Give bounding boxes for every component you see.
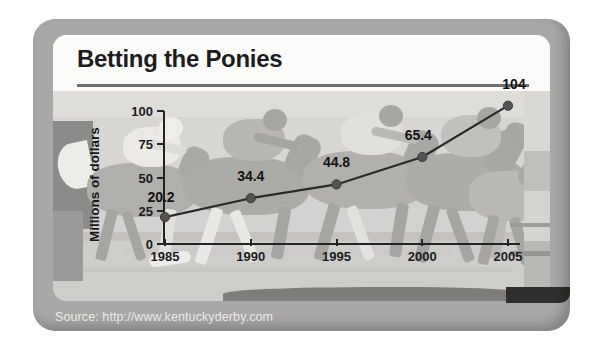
chart-card-frame: Betting the Ponies xyxy=(33,19,570,331)
data-point-marker xyxy=(332,180,341,189)
chart-card: Betting the Ponies xyxy=(53,35,550,301)
data-point-label: 44.8 xyxy=(323,154,350,170)
data-point-marker xyxy=(160,213,169,222)
data-point-label: 104 xyxy=(502,76,525,92)
series-line xyxy=(53,35,550,301)
data-point-label: 65.4 xyxy=(405,127,432,143)
line-chart-plot: Millions of dollars 0255075100 198519901… xyxy=(53,35,550,301)
source-attribution: Source: http://www.kentuckyderby.com xyxy=(55,310,273,324)
source-band: Source: http://www.kentuckyderby.com xyxy=(33,301,570,331)
footer-sweep-shape xyxy=(223,287,523,301)
data-point-label: 34.4 xyxy=(237,168,264,184)
data-point-marker xyxy=(246,194,255,203)
data-point-marker xyxy=(503,101,512,110)
data-point-marker xyxy=(418,152,427,161)
data-point-label: 20.2 xyxy=(147,189,174,205)
